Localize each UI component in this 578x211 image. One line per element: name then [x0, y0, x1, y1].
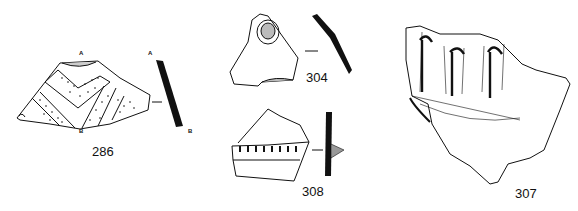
figure-number-304: 304: [306, 70, 328, 85]
sherd-304-profile: [305, 14, 352, 74]
figure-number-308: 308: [302, 184, 324, 199]
sherd-308-drawing: [232, 109, 309, 181]
section-label-b: B: [79, 128, 83, 134]
section-label-a: A: [79, 50, 83, 56]
sherd-286-drawing: [17, 61, 150, 129]
sherd-308-profile: [312, 112, 344, 176]
pottery-figure: [0, 0, 578, 211]
figure-number-286: 286: [92, 144, 114, 159]
profile-label-b: B: [188, 128, 192, 134]
sherd-307-drawing: [406, 26, 570, 184]
figure-number-307: 307: [515, 186, 537, 201]
sherd-286-profile: [152, 60, 183, 127]
profile-label-a: A: [148, 50, 152, 56]
sherd-304-drawing: [230, 14, 298, 86]
